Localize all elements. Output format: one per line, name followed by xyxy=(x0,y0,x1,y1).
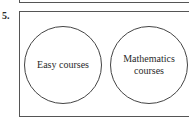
venn-circle-easy-courses: Easy courses xyxy=(24,26,102,104)
venn-circle-mathematics-courses: Mathematics courses xyxy=(110,26,188,104)
venn-circle-label: Mathematics courses xyxy=(119,53,179,77)
venn-diagram-universe: Easy courses Mathematics courses xyxy=(19,11,189,117)
venn-circle-label: Easy courses xyxy=(37,59,89,71)
previous-box-bottom-edge xyxy=(19,2,189,3)
question-number: 5. xyxy=(2,10,10,21)
